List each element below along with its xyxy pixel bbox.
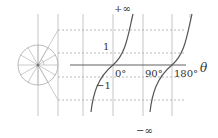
tan-branch-right [150, 14, 192, 112]
tick-label-0-deg: 0° [115, 68, 126, 79]
minus-infinity-label: −∞ [136, 125, 153, 136]
tick-label-minus-one: −1 [96, 80, 111, 91]
diagram-canvas: +∞ −∞ 1 −1 0° 90° 180° θ [0, 0, 218, 138]
tan-branch-left [91, 14, 133, 112]
tick-label-one: 1 [103, 41, 109, 52]
theta-axis-label: θ [200, 61, 208, 75]
tangent-graph-diagram: +∞ −∞ 1 −1 0° 90° 180° θ [0, 0, 218, 138]
tangent-curves [91, 14, 192, 112]
plus-infinity-label: +∞ [114, 3, 131, 14]
tick-label-90-deg: 90° [145, 68, 163, 79]
tick-label-180-deg: 180° [174, 68, 198, 79]
